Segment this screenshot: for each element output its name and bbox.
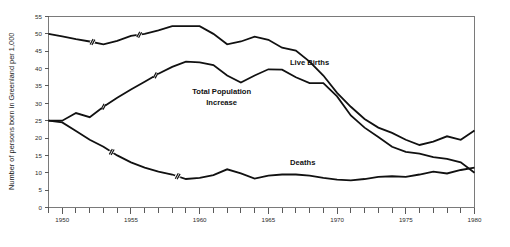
y-tick-label: 25 — [35, 117, 42, 124]
series-label-deaths: Deaths — [290, 158, 315, 167]
y-tick-label: 30 — [35, 100, 42, 107]
y-axis-title: Number of persons born in Greenland per … — [7, 33, 16, 190]
y-tick-label: 40 — [35, 65, 42, 72]
y-tick-label: 50 — [35, 30, 42, 37]
x-tick-label: 1975 — [399, 216, 413, 223]
y-tick-label: 55 — [35, 13, 42, 20]
x-tick-label: 1960 — [193, 216, 207, 223]
y-tick-label: 5 — [39, 186, 43, 193]
y-tick-label: 10 — [35, 169, 42, 176]
x-tick-label: 1980 — [468, 216, 482, 223]
y-tick-label: 20 — [35, 134, 42, 141]
series-label-live-births: Live Births — [290, 58, 329, 67]
x-tick-label: 1965 — [261, 216, 275, 223]
x-tick-label: 1970 — [330, 216, 344, 223]
x-tick-label: 1950 — [55, 216, 69, 223]
series-label-increase: Increase — [206, 98, 237, 107]
y-tick-label: 35 — [35, 82, 42, 89]
series-label-total-population: Total Population — [192, 87, 251, 96]
y-tick-label: 0 — [39, 204, 43, 211]
chart-container: 0510152025303540455055 19501955196019651… — [0, 0, 510, 247]
x-tick-label: 1955 — [124, 216, 138, 223]
y-tick-label: 45 — [35, 47, 42, 54]
y-tick-label: 15 — [35, 152, 42, 159]
line-chart: 0510152025303540455055 19501955196019651… — [0, 0, 510, 247]
